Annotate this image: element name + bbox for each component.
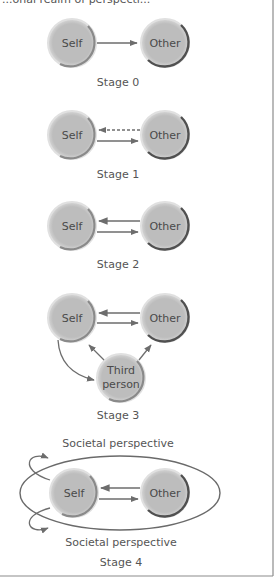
societal-perspective-caption-top: Societal perspective	[62, 437, 174, 450]
perspective-taking-diagram: ...onal realm of perspecti... Self Other…	[0, 0, 276, 578]
other-node: Other	[141, 469, 189, 517]
stage-label: Stage 0	[97, 76, 139, 89]
other-label: Other	[149, 220, 181, 233]
self-node: Self	[48, 294, 96, 342]
self-label: Self	[62, 220, 84, 233]
self-label: Self	[62, 129, 84, 142]
stage-label: Stage 2	[97, 258, 139, 271]
self-label: Self	[64, 487, 86, 500]
self-node: Self	[50, 469, 98, 517]
other-node: Other	[141, 294, 189, 342]
societal-perspective-caption-bottom: Societal perspective	[65, 536, 177, 549]
self-node: Self	[48, 19, 96, 67]
arrow-third-to-self	[89, 345, 104, 360]
self-label: Self	[62, 37, 84, 50]
arrow-third-to-other	[139, 345, 151, 360]
stage-0: Self Other Stage 0	[48, 19, 189, 89]
self-node: Self	[48, 111, 96, 159]
other-label: Other	[149, 129, 181, 142]
stage-1: Self Other Stage 1	[48, 111, 189, 181]
other-label: Other	[149, 37, 181, 50]
stage-label: Stage 4	[100, 556, 142, 569]
clipped-caption: ...onal realm of perspecti...	[2, 0, 150, 6]
arrow-self-to-third-curved	[58, 340, 94, 380]
stage-label: Stage 3	[97, 409, 139, 422]
third-person-label-line1: Third	[106, 364, 135, 377]
stage-4: Societal perspective Self Other Societal…	[20, 437, 220, 569]
self-node: Self	[48, 202, 96, 250]
stage-2: Self Other Stage 2	[48, 202, 189, 271]
other-node: Other	[141, 19, 189, 67]
stage-3: Self Other Third person Stage 3	[48, 294, 189, 422]
other-node: Other	[141, 202, 189, 250]
other-node: Other	[141, 111, 189, 159]
stage-label: Stage 1	[97, 168, 139, 181]
third-person-label-line2: person	[102, 378, 140, 391]
other-label: Other	[149, 312, 181, 325]
self-label: Self	[62, 312, 84, 325]
other-label: Other	[149, 487, 181, 500]
third-person-node: Third person	[97, 354, 145, 402]
